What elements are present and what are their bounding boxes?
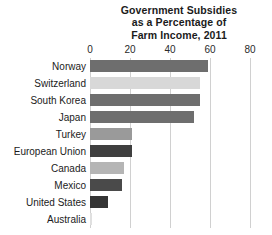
- x-tick-label-20: 20: [124, 44, 135, 55]
- category-label-south-korea: South Korea: [0, 92, 86, 109]
- bar-turkey: [90, 128, 132, 140]
- bar-row: Mexico: [0, 177, 272, 194]
- chart-title-line-3: Farm Income, 2011: [86, 29, 272, 41]
- category-label-canada: Canada: [0, 160, 86, 177]
- category-label-norway: Norway: [0, 58, 86, 75]
- bar-row: South Korea: [0, 92, 272, 109]
- bar-switzerland: [90, 77, 200, 89]
- category-label-switzerland: Switzerland: [0, 75, 86, 92]
- category-label-european-union: European Union: [0, 143, 86, 160]
- x-tick-label-60: 60: [204, 44, 215, 55]
- bar-european-union: [90, 145, 132, 157]
- bar-row: Norway: [0, 58, 272, 75]
- bar-row: Australia: [0, 211, 272, 228]
- bar-japan: [90, 111, 194, 123]
- category-label-australia: Australia: [0, 211, 86, 228]
- bar-canada: [90, 162, 124, 174]
- bar-row: Japan: [0, 109, 272, 126]
- category-label-japan: Japan: [0, 109, 86, 126]
- category-label-turkey: Turkey: [0, 126, 86, 143]
- bar-row: European Union: [0, 143, 272, 160]
- bar-row: Switzerland: [0, 75, 272, 92]
- chart-title-line-2: as a Percentage of: [86, 16, 272, 28]
- bar-row: Turkey: [0, 126, 272, 143]
- bar-mexico: [90, 179, 122, 191]
- x-tick-label-0: 0: [87, 44, 93, 55]
- x-axis-tick-labels: 020406080: [0, 44, 272, 58]
- bar-row: United States: [0, 194, 272, 211]
- bar-south-korea: [90, 94, 200, 106]
- category-label-mexico: Mexico: [0, 177, 86, 194]
- chart-title-line-1: Government Subsidies: [86, 4, 272, 16]
- bar-row: Canada: [0, 160, 272, 177]
- category-label-united-states: United States: [0, 194, 86, 211]
- bar-chart: Government Subsidies as a Percentage of …: [0, 0, 272, 235]
- bar-rows: NorwaySwitzerlandSouth KoreaJapanTurkeyE…: [0, 58, 272, 228]
- bar-united-states: [90, 196, 108, 208]
- bar-australia: [90, 213, 92, 225]
- x-tick-label-80: 80: [244, 44, 255, 55]
- bar-norway: [90, 60, 208, 72]
- x-tick-label-40: 40: [164, 44, 175, 55]
- chart-title: Government Subsidies as a Percentage of …: [86, 4, 272, 41]
